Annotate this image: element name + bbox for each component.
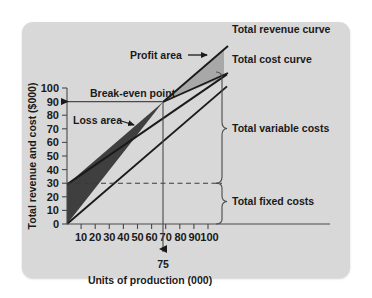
- x-tick-labels: 10 20 30 40 50 60 70 80 90 100: [75, 231, 219, 243]
- svg-text:80: 80: [174, 231, 186, 243]
- x-axis-title: Units of production (000): [88, 274, 212, 286]
- svg-text:20: 20: [47, 191, 59, 203]
- total-variable-costs-label: Total variable costs: [232, 122, 329, 134]
- total-fixed-costs-brace: [216, 183, 227, 224]
- total-revenue-curve-line: [67, 86, 227, 224]
- svg-text:20: 20: [89, 231, 101, 243]
- svg-text:10: 10: [47, 204, 59, 216]
- y-axis-ticks: [62, 88, 67, 224]
- svg-text:30: 30: [103, 231, 115, 243]
- total-fixed-costs-label: Total fixed costs: [232, 195, 314, 207]
- svg-text:50: 50: [47, 150, 59, 162]
- svg-text:60: 60: [145, 231, 157, 243]
- svg-text:80: 80: [47, 109, 59, 121]
- total-cost-curve-label: Total cost curve: [232, 53, 312, 65]
- y-tick-labels: 100 90 80 70 60 50 40 30 20 10 0: [41, 82, 59, 230]
- break-even-chart: 100 90 80 70 60 50 40 30 20 10 0 10 20 3…: [0, 0, 372, 298]
- break-even-x-value-label: 75: [157, 258, 169, 270]
- total-revenue-curve-label: Total revenue curve: [232, 23, 331, 35]
- chart-svg: 100 90 80 70 60 50 40 30 20 10 0 10 20 3…: [0, 0, 372, 298]
- profit-area-label: Profit area: [130, 49, 182, 61]
- svg-text:30: 30: [47, 177, 59, 189]
- svg-text:90: 90: [47, 96, 59, 108]
- svg-text:10: 10: [75, 231, 87, 243]
- svg-text:40: 40: [117, 231, 129, 243]
- svg-text:100: 100: [41, 82, 59, 94]
- svg-text:50: 50: [131, 231, 143, 243]
- svg-text:100: 100: [200, 231, 218, 243]
- svg-text:70: 70: [47, 123, 59, 135]
- svg-text:40: 40: [47, 164, 59, 176]
- svg-text:0: 0: [53, 218, 59, 230]
- svg-text:70: 70: [160, 231, 172, 243]
- break-even-point-label: Break-even point: [90, 87, 176, 99]
- svg-text:60: 60: [47, 136, 59, 148]
- loss-area-label: Loss area: [73, 114, 122, 126]
- svg-text:90: 90: [188, 231, 200, 243]
- y-axis-title: Total revenue and cost ($000): [26, 83, 38, 230]
- x-axis-ticks: [81, 224, 208, 229]
